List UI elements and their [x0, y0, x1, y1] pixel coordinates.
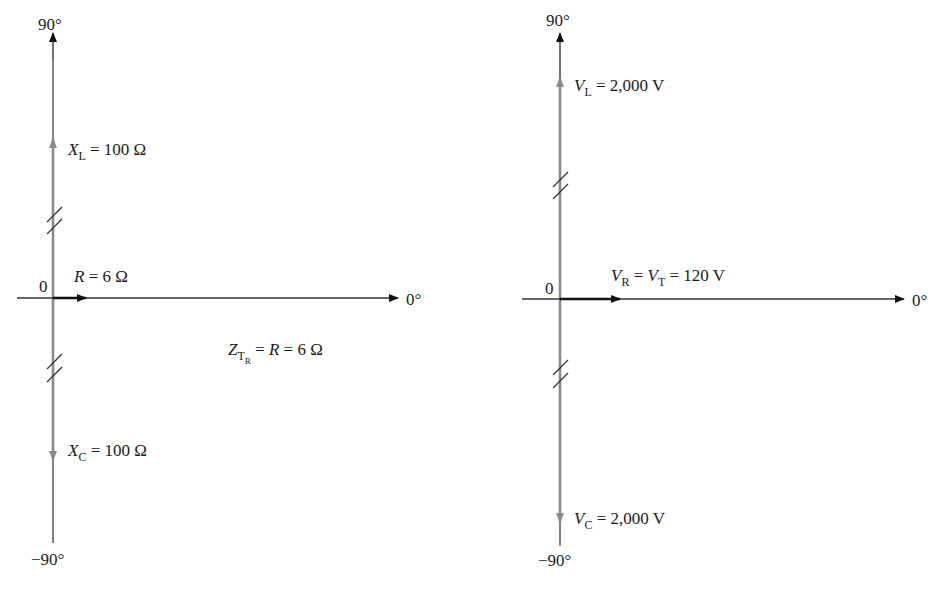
- label-xc: XC = 100 Ω: [67, 441, 147, 464]
- label-xl: XL = 100 Ω: [67, 140, 146, 163]
- label-vl: VL = 2,000 V: [574, 76, 665, 99]
- label-90: 90°: [546, 11, 570, 30]
- label-0-deg: 0°: [912, 291, 927, 310]
- label-ztr: ZTR = R = 6 Ω: [228, 340, 323, 366]
- impedance-diagram: 90° −90° 0° 0 XL = 100 Ω R = 6 Ω XC = 10…: [17, 15, 421, 569]
- label-90: 90°: [38, 15, 62, 34]
- break-mark-lower: [47, 354, 62, 382]
- label-minus-90: −90°: [538, 551, 571, 570]
- phasor-diagrams: 90° −90° 0° 0 XL = 100 Ω R = 6 Ω XC = 10…: [0, 0, 942, 590]
- label-0-deg: 0°: [406, 290, 421, 309]
- break-mark-upper: [47, 207, 62, 234]
- voltage-diagram: 90° −90° 0° 0 VL = 2,000 V VR = VT = 120…: [522, 11, 927, 570]
- label-vc: VC = 2,000 V: [574, 509, 666, 532]
- label-origin: 0: [39, 277, 48, 296]
- label-origin: 0: [545, 279, 554, 298]
- label-r: R = 6 Ω: [73, 267, 128, 286]
- label-minus-90: −90°: [31, 550, 64, 569]
- label-vr-vt: VR = VT = 120 V: [611, 266, 726, 289]
